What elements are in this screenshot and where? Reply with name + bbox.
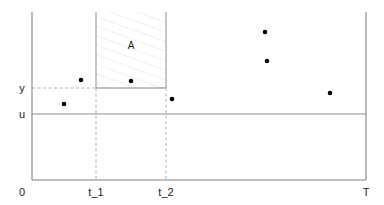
data-point [265,59,270,64]
x-t1-label: t_1 [88,186,103,198]
data-point [328,91,333,96]
data-point [62,102,67,107]
u-baseline-label: u [19,108,25,120]
x-t2-label: t_2 [158,186,173,198]
y-threshold-label: y [19,82,25,94]
region-a-label: A [128,40,135,51]
chart-figure: A y u 0 t_1 t_2 T [0,0,384,205]
data-point [263,30,268,35]
data-point [129,79,134,84]
x-end-label: T [363,186,370,198]
data-point [79,78,84,83]
data-point [170,97,175,102]
scatter-plot-svg: A y u 0 t_1 t_2 T [0,0,384,205]
x-origin-label: 0 [19,186,25,198]
